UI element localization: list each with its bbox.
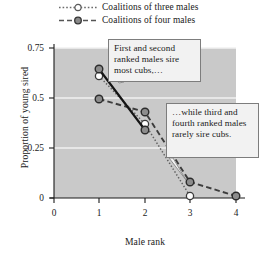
data-point [141, 126, 149, 134]
x-tick-label-0: 0 [46, 208, 62, 218]
y-axis-title: Proportion of young sired [19, 53, 30, 183]
data-point [186, 178, 194, 186]
data-point [232, 192, 240, 200]
chart-figure: Coalitions of three males Coalitions of … [0, 0, 265, 261]
x-tick-label-4: 4 [228, 208, 244, 218]
x-tick-label-3: 3 [182, 208, 198, 218]
y-tick-label-075: 0.75 [14, 43, 44, 53]
plot-area: 0.75 0.5 0.25 0 0 1 2 3 4 Proportion of … [0, 0, 265, 261]
data-point [141, 108, 149, 116]
callout-third-fourth: …while third and fourth ranked males rar… [166, 103, 259, 158]
data-point [95, 95, 103, 103]
x-tick-label-1: 1 [91, 208, 107, 218]
y-tick-label-0: 0 [14, 193, 44, 203]
x-tick-label-2: 2 [137, 208, 153, 218]
callout-third-fourth-text: …while third and fourth ranked males rar… [172, 107, 254, 141]
x-axis-title: Male rank [100, 236, 190, 247]
data-point [186, 192, 193, 199]
x-axis-ticks [54, 198, 236, 203]
data-point [95, 65, 103, 73]
callout-first-second: First and second ranked males sire most … [108, 39, 201, 82]
y-axis-ticks [49, 48, 54, 198]
callout-first-second-text: First and second ranked males sire most … [114, 43, 196, 77]
